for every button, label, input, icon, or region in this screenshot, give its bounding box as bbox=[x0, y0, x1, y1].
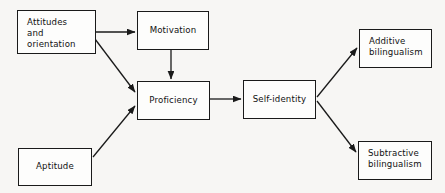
arrow-aptitude-to-proficiency bbox=[93, 106, 135, 157]
node-additive[interactable]: Additive bilingualism bbox=[359, 29, 432, 68]
node-subtractive[interactable]: Subtractive bilingualism bbox=[358, 141, 432, 180]
node-label-attitudes: Attitudes and orientation bbox=[27, 17, 95, 51]
node-label-subtractive: Subtractive bilingualism bbox=[368, 148, 431, 170]
arrow-self-identity-to-subtractive bbox=[317, 101, 356, 152]
diagram-canvas: Attitudes and orientationMotivationProfi… bbox=[0, 0, 445, 193]
node-motivation[interactable]: Motivation bbox=[137, 11, 209, 50]
node-label-proficiency: Proficiency bbox=[149, 95, 197, 106]
arrow-attitudes-to-proficiency bbox=[95, 39, 135, 92]
node-attitudes[interactable]: Attitudes and orientation bbox=[17, 10, 96, 54]
node-label-aptitude: Aptitude bbox=[36, 161, 74, 172]
node-self-identity[interactable]: Self-identity bbox=[243, 80, 316, 119]
arrow-self-identity-to-additive bbox=[317, 48, 357, 97]
node-proficiency[interactable]: Proficiency bbox=[137, 81, 210, 120]
node-label-additive: Additive bilingualism bbox=[369, 36, 431, 58]
node-label-self-identity: Self-identity bbox=[253, 94, 307, 105]
node-label-motivation: Motivation bbox=[150, 25, 197, 36]
node-aptitude[interactable]: Aptitude bbox=[18, 148, 92, 186]
